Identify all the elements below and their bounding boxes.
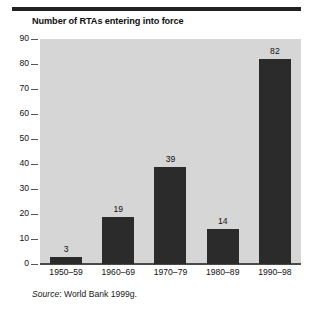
x-axis-tick-label: 1970–79 <box>144 267 196 277</box>
y-axis-tick-label: 30 <box>19 183 29 193</box>
source-text: World Bank 1999g. <box>64 289 137 299</box>
y-axis-tick-label: 90 <box>19 33 29 43</box>
y-axis: 0102030405060708090 <box>0 39 40 264</box>
y-axis-tick-mark <box>31 114 38 115</box>
bar-slot: 82 <box>249 39 301 264</box>
y-axis-tick-mark <box>31 214 38 215</box>
y-axis-tick-mark <box>31 64 38 65</box>
bar-value-label: 14 <box>218 216 228 226</box>
y-axis-tick-label: 20 <box>19 208 29 218</box>
bar <box>207 229 239 264</box>
bar-value-label: 39 <box>166 154 176 164</box>
y-axis-tick-mark <box>31 164 38 165</box>
bar-slot: 14 <box>197 39 249 264</box>
bar-slot: 3 <box>40 39 92 264</box>
bar-value-label: 3 <box>64 244 69 254</box>
bar-series: 319391482 <box>40 39 301 264</box>
y-axis-tick-mark <box>31 264 38 265</box>
y-axis-tick-label: 40 <box>19 158 29 168</box>
x-axis-tick-label: 1990–98 <box>249 267 301 277</box>
y-axis-tick-mark <box>31 139 38 140</box>
source-separator: : <box>59 289 61 299</box>
source-note: Source: World Bank 1999g. <box>32 289 137 299</box>
y-axis-tick-label: 0 <box>24 258 29 268</box>
x-axis-tick-label: 1950–59 <box>40 267 92 277</box>
y-axis-tick-mark <box>31 189 38 190</box>
source-label: Source <box>32 289 59 299</box>
bar <box>50 257 82 265</box>
y-axis-tick-mark <box>31 239 38 240</box>
bar <box>154 167 186 265</box>
y-axis-tick-mark <box>31 39 38 40</box>
bar-slot: 19 <box>92 39 144 264</box>
x-axis-tick-label: 1980–89 <box>197 267 249 277</box>
bar-value-label: 82 <box>270 46 280 56</box>
y-axis-tick-label: 10 <box>19 233 29 243</box>
bar-value-label: 19 <box>114 204 124 214</box>
y-axis-tick-label: 60 <box>19 108 29 118</box>
bar <box>259 59 291 264</box>
chart-figure: Number of RTAs entering into force 01020… <box>0 0 313 322</box>
x-axis: 1950–591960–691970–791980–891990–98 <box>40 267 301 283</box>
chart-title: Number of RTAs entering into force <box>32 16 184 26</box>
top-rule <box>12 7 301 11</box>
y-axis-tick-label: 70 <box>19 83 29 93</box>
y-axis-tick-label: 80 <box>19 58 29 68</box>
x-axis-tick-label: 1960–69 <box>92 267 144 277</box>
bar <box>102 217 134 265</box>
y-axis-tick-label: 50 <box>19 133 29 143</box>
bar-slot: 39 <box>144 39 196 264</box>
y-axis-tick-mark <box>31 89 38 90</box>
